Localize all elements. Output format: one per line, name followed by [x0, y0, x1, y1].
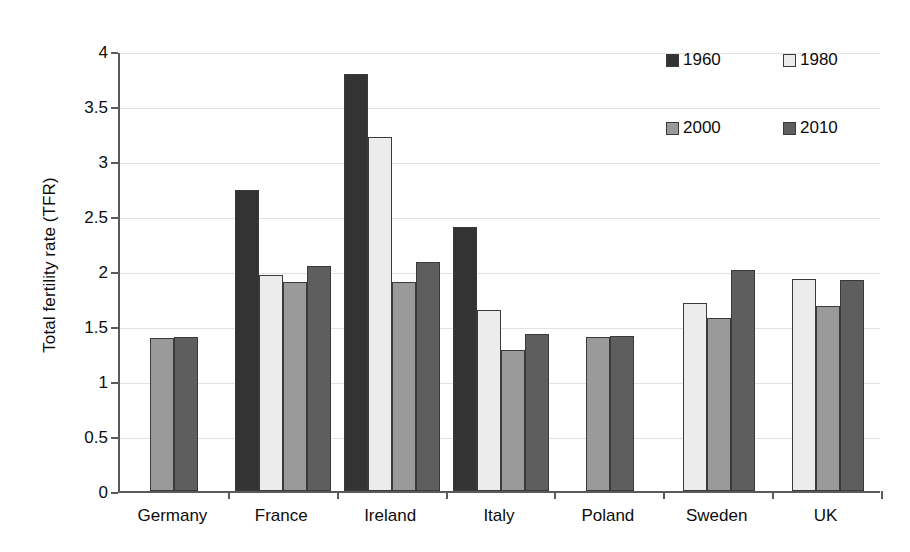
bar-chart: Total fertility rate (TFR) 00.511.522.53…	[0, 0, 910, 552]
y-axis-tick-label: 1	[58, 374, 108, 391]
x-axis-tick-label: Ireland	[336, 506, 445, 526]
gridline	[120, 273, 880, 274]
y-axis-tick-label: 3.5	[58, 99, 108, 116]
y-axis-title: Total fertility rate (TFR)	[40, 55, 60, 475]
bar	[501, 350, 525, 491]
y-axis-tick-mark	[111, 327, 118, 329]
legend-item-1980: 1980	[783, 50, 838, 70]
y-axis-tick-label: 2	[58, 264, 108, 281]
x-axis-separator	[881, 491, 883, 499]
legend-swatch-1980	[783, 54, 796, 67]
bar	[283, 282, 307, 491]
legend-item-2000: 2000	[666, 118, 721, 138]
gridline	[120, 218, 880, 219]
x-axis-separator	[663, 491, 665, 499]
x-axis-tick-label: Poland	[553, 506, 662, 526]
y-axis-tick-mark	[111, 107, 118, 109]
legend-swatch-2010	[783, 122, 796, 135]
legend-label-1960: 1960	[683, 50, 721, 70]
bar	[235, 190, 259, 491]
legend-label-2000: 2000	[683, 118, 721, 138]
bar	[416, 262, 440, 491]
bar	[840, 280, 864, 491]
bar	[150, 338, 174, 491]
bar	[368, 137, 392, 491]
x-axis-tick-label: Sweden	[662, 506, 771, 526]
bar	[816, 306, 840, 491]
x-axis-separator	[554, 491, 556, 499]
bar	[586, 337, 610, 491]
bar	[392, 282, 416, 491]
x-axis-separator	[228, 491, 230, 499]
x-axis-tick-label: UK	[771, 506, 880, 526]
bar	[453, 227, 477, 491]
y-axis-tick-label: 0.5	[58, 429, 108, 446]
y-axis-tick-label: 3	[58, 154, 108, 171]
y-axis-tick-mark	[111, 217, 118, 219]
x-axis-tick-label: Germany	[118, 506, 227, 526]
y-axis-tick-mark	[111, 162, 118, 164]
x-axis-tick-label: Italy	[445, 506, 554, 526]
x-axis-separator	[337, 491, 339, 499]
legend-item-1960: 1960	[666, 50, 721, 70]
bar	[259, 275, 283, 491]
bar	[707, 318, 731, 491]
x-axis-separator	[446, 491, 448, 499]
legend: 1960 1980 2000 2010	[666, 48, 892, 144]
legend-swatch-2000	[666, 122, 679, 135]
bar	[731, 270, 755, 491]
x-axis-tick-label: France	[227, 506, 336, 526]
legend-swatch-1960	[666, 54, 679, 67]
y-axis-tick-mark	[111, 437, 118, 439]
x-axis-separator	[772, 491, 774, 499]
bar	[610, 336, 634, 491]
bar	[174, 337, 198, 491]
gridline	[120, 163, 880, 164]
bar	[307, 266, 331, 492]
bar	[525, 334, 549, 491]
y-axis-tick-mark	[111, 52, 118, 54]
bar	[683, 303, 707, 491]
y-axis-tick-label: 4	[58, 44, 108, 61]
bar	[477, 310, 501, 492]
y-axis-tick-label: 1.5	[58, 319, 108, 336]
bar	[344, 74, 368, 491]
y-axis-tick-mark	[111, 272, 118, 274]
y-axis-tick-label: 0	[58, 484, 108, 501]
legend-label-1980: 1980	[800, 50, 838, 70]
y-axis-tick-mark	[111, 382, 118, 384]
y-axis-tick-mark	[111, 492, 118, 494]
legend-label-2010: 2010	[800, 118, 838, 138]
legend-item-2010: 2010	[783, 118, 838, 138]
bar	[792, 279, 816, 491]
y-axis-tick-label: 2.5	[58, 209, 108, 226]
